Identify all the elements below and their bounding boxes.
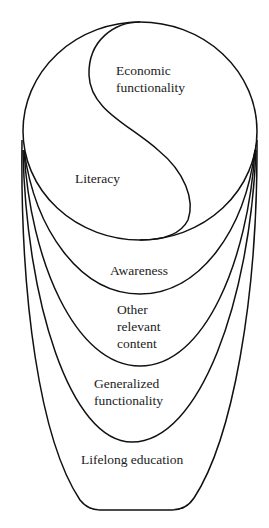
label-line: relevant	[117, 318, 160, 335]
label-line: Generalized	[94, 375, 163, 392]
label-awareness: Awareness	[110, 262, 168, 279]
literacy-economic-circle	[23, 22, 257, 240]
label-generalized-functionality: Generalized functionality	[94, 375, 163, 409]
label-line: Economic	[116, 62, 185, 79]
label-economic-functionality: Economic functionality	[116, 62, 185, 96]
label-line: Other	[117, 301, 160, 318]
yin-yang-divider	[89, 22, 190, 240]
label-line: content	[117, 335, 160, 352]
label-other-relevant-content: Other relevant content	[117, 301, 160, 352]
label-line: Literacy	[75, 170, 120, 187]
label-line: Lifelong education	[81, 451, 183, 468]
label-line: functionality	[116, 79, 185, 96]
label-line: Awareness	[110, 262, 168, 279]
label-line: functionality	[94, 392, 163, 409]
label-literacy: Literacy	[75, 170, 120, 187]
label-lifelong-education: Lifelong education	[81, 451, 183, 468]
